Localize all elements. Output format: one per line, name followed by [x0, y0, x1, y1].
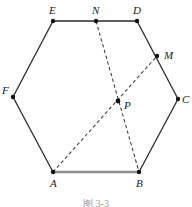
point-dot-F	[11, 95, 15, 99]
dashed-construction-lines	[53, 21, 157, 172]
hexagon-figure: E N D M F C P A B 图 3-3	[0, 0, 192, 207]
point-label-C: C	[182, 94, 189, 105]
edge-EF	[13, 21, 53, 97]
point-dot-D	[135, 19, 139, 23]
point-label-P: P	[124, 100, 131, 111]
figure-caption: 图 3-3	[83, 199, 109, 207]
edge-FA	[13, 97, 53, 172]
figure-caption-strip: 图 3-3	[0, 199, 192, 207]
point-dot-P	[116, 99, 121, 104]
figure-canvas	[0, 0, 192, 207]
point-label-E: E	[49, 5, 56, 16]
point-dot-N	[94, 19, 98, 23]
point-dot-E	[51, 19, 55, 23]
dashed-segment-NB	[96, 21, 139, 172]
edge-BC	[139, 99, 178, 172]
point-markers	[11, 19, 180, 174]
point-label-D: D	[133, 5, 141, 16]
point-dot-A	[51, 170, 55, 174]
point-label-A: A	[50, 178, 57, 189]
point-dot-M	[155, 54, 159, 58]
point-label-B: B	[136, 178, 143, 189]
point-dot-B	[137, 170, 141, 174]
point-label-M: M	[164, 50, 173, 61]
point-dot-C	[176, 97, 180, 101]
point-label-N: N	[92, 5, 99, 16]
dashed-segment-AM	[53, 56, 157, 172]
point-label-F: F	[2, 85, 9, 96]
hexagon-edges	[13, 21, 178, 172]
